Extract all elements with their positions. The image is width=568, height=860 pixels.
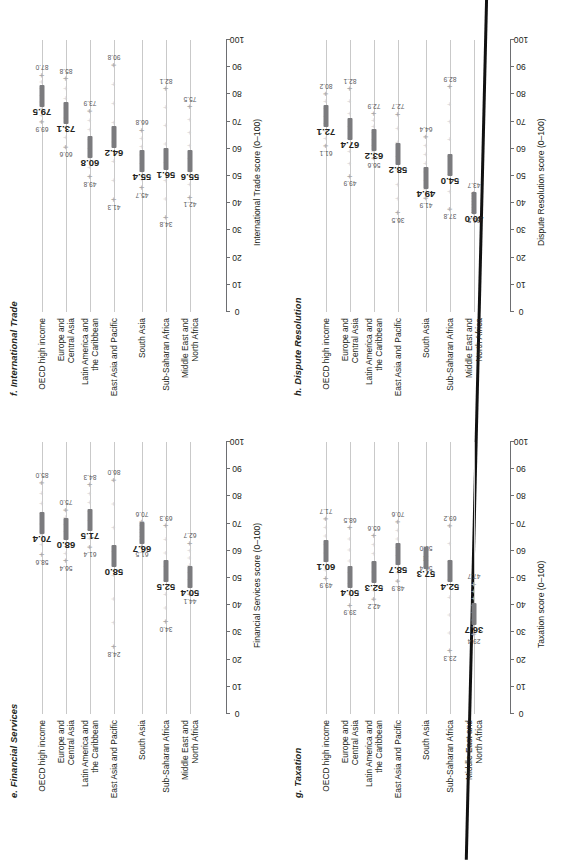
distribution-tick [110, 620, 118, 625]
min-value-label: 58.6 [36, 558, 49, 565]
axis-tick [226, 284, 230, 285]
chart-row: Middle East and North Africa29.447.736.7 [462, 442, 486, 714]
min-marker [346, 174, 355, 179]
max-marker [38, 480, 47, 485]
axis-tick-label: 10 [232, 280, 242, 290]
chart-row: OECD high income49.971.760.1 [314, 442, 338, 714]
distribution-tick [110, 597, 118, 602]
distribution-tick [470, 589, 478, 594]
min-value-label: 45.7 [136, 191, 149, 198]
gridline [114, 442, 115, 714]
min-value-label: 39.9 [344, 609, 357, 616]
max-marker [138, 128, 147, 133]
x-axis [226, 40, 227, 312]
mean-value-label: 58.0 [105, 567, 124, 578]
max-marker [186, 104, 195, 109]
distribution-tick [86, 500, 94, 505]
min-value-label: 56.4 [60, 564, 73, 571]
chart-row: Latin America and the Caribbean56.672.96… [362, 40, 386, 312]
min-marker [186, 195, 195, 200]
category-label: South Asia [421, 720, 431, 760]
axis-tick-label: 60 [232, 546, 242, 556]
axis-tick-label: 10 [516, 682, 526, 692]
max-value-label: 85.0 [36, 471, 49, 478]
chart-row: South Asia41.964.449.4 [414, 40, 438, 312]
distribution-tick [110, 178, 118, 183]
mean-value-label: 50.4 [181, 587, 200, 598]
axis-tick-label: 30 [516, 225, 526, 235]
x-axis [510, 442, 511, 714]
mean-bar [188, 150, 193, 172]
chart-row: Middle East and North Africa44.162.750.4 [178, 442, 202, 714]
mean-value-label: 70.4 [33, 533, 52, 544]
distribution-tick [86, 491, 94, 496]
mean-value-label: 54.0 [441, 176, 460, 187]
axis-tick [226, 148, 230, 149]
max-marker [62, 76, 71, 81]
category-label: Sub-Saharan Africa [161, 720, 171, 793]
axis-tick [226, 311, 230, 312]
axis-tick [226, 713, 230, 714]
chart-panel-e: e. Financial ServicesOECD high income58.… [8, 406, 270, 798]
chart-row: Sub-Saharan Africa34.882.156.1 [154, 40, 178, 312]
axis-tick-label: 10 [516, 280, 526, 290]
max-value-label: 85.8 [60, 67, 73, 74]
axis-tick-label: 90 [516, 464, 526, 474]
distribution-tick [370, 124, 378, 129]
mean-value-label: 67.4 [341, 139, 360, 150]
axis-tick [510, 659, 514, 660]
category-label: South Asia [421, 318, 431, 358]
max-value-label: 87.0 [36, 64, 49, 71]
axis-tick [510, 495, 514, 496]
mean-bar [372, 129, 377, 151]
chart-row: East Asia and Pacific41.390.864.2 [102, 40, 126, 312]
max-value-label: 64.4 [420, 125, 433, 132]
max-marker [162, 86, 171, 91]
distribution-tick [346, 536, 354, 541]
mean-bar [324, 540, 329, 562]
min-value-label: 29.4 [468, 638, 481, 645]
min-value-label: 49.8 [84, 180, 97, 187]
mean-bar [164, 560, 169, 582]
distribution-tick [38, 491, 46, 496]
distribution-tick [322, 525, 330, 530]
axis-tick-label: 80 [516, 89, 526, 99]
distribution-tick [162, 551, 170, 556]
panel-title: e. Financial Services [8, 704, 19, 798]
axis-tick [510, 121, 514, 122]
axis-tick-label: 90 [232, 464, 242, 474]
axis-tick-label: 30 [232, 225, 242, 235]
chart-row: Sub-Saharan Africa37.882.954.0 [438, 40, 462, 312]
max-marker [162, 523, 171, 528]
min-value-label: 42.1 [184, 201, 197, 208]
min-marker [110, 644, 119, 649]
distribution-tick [186, 556, 194, 561]
min-marker [38, 552, 47, 557]
axis-tick-label: 50 [232, 171, 242, 181]
category-label: Latin America and the Caribbean [80, 318, 100, 385]
distribution-tick [186, 130, 194, 135]
axis-tick-label: 70 [232, 519, 242, 529]
chart-row: Europe and Central Asia39.968.550.4 [338, 442, 362, 714]
mean-value-label: 63.2 [365, 151, 384, 162]
max-value-label: 69.3 [160, 514, 173, 521]
axis-tick-label: 80 [516, 491, 526, 501]
min-marker [446, 648, 455, 653]
max-value-label: 66.8 [136, 119, 149, 126]
mean-bar [40, 512, 45, 534]
min-value-label: 48.9 [392, 585, 405, 592]
min-marker [162, 619, 171, 624]
chart-panel-h: h. Dispute ResolutionOECD high income61.… [292, 4, 554, 396]
max-marker [38, 73, 47, 78]
axis-tick [510, 523, 514, 524]
max-value-label: 82.1 [160, 77, 173, 84]
distribution-tick [86, 127, 94, 132]
min-marker [86, 544, 95, 549]
chart-row: Latin America and the Caribbean61.484.37… [78, 442, 102, 714]
distribution-tick [446, 613, 454, 618]
mean-value-label: 49.4 [417, 188, 436, 199]
distribution-tick [162, 141, 170, 146]
max-value-label: 86.0 [108, 469, 121, 476]
min-marker [394, 210, 403, 215]
axis-tick [510, 229, 514, 230]
